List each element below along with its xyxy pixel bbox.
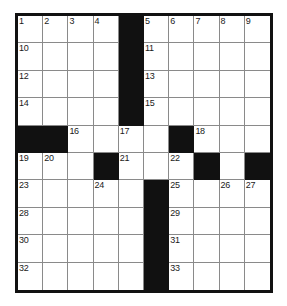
clue-number: 1: [19, 16, 24, 26]
clue-number: 18: [195, 126, 204, 136]
letter-cell[interactable]: 11: [144, 43, 169, 70]
letter-cell[interactable]: [119, 263, 144, 290]
letter-cell[interactable]: 2: [43, 16, 68, 43]
block-cell: [18, 126, 43, 153]
letter-cell[interactable]: [169, 71, 194, 98]
letter-cell[interactable]: 27: [245, 180, 270, 207]
letter-cell[interactable]: 13: [144, 71, 169, 98]
letter-cell[interactable]: [43, 71, 68, 98]
letter-cell[interactable]: [194, 180, 219, 207]
letter-cell[interactable]: 15: [144, 98, 169, 125]
letter-cell[interactable]: 32: [18, 263, 43, 290]
clue-number: 23: [19, 180, 28, 190]
letter-cell[interactable]: 6: [169, 16, 194, 43]
letter-cell[interactable]: [194, 98, 219, 125]
letter-cell[interactable]: 21: [119, 153, 144, 180]
letter-cell[interactable]: [94, 43, 119, 70]
letter-cell[interactable]: 23: [18, 180, 43, 207]
letter-cell[interactable]: [220, 43, 245, 70]
letter-cell[interactable]: [94, 71, 119, 98]
letter-cell[interactable]: [119, 208, 144, 235]
letter-cell[interactable]: [169, 98, 194, 125]
letter-cell[interactable]: 16: [68, 126, 93, 153]
letter-cell[interactable]: [220, 71, 245, 98]
letter-cell[interactable]: [245, 208, 270, 235]
letter-cell[interactable]: [194, 235, 219, 262]
letter-cell[interactable]: [194, 208, 219, 235]
letter-cell[interactable]: 9: [245, 16, 270, 43]
letter-cell[interactable]: [68, 263, 93, 290]
letter-cell[interactable]: [169, 43, 194, 70]
letter-cell[interactable]: [119, 235, 144, 262]
letter-cell[interactable]: [68, 180, 93, 207]
letter-cell[interactable]: 17: [119, 126, 144, 153]
letter-cell[interactable]: [220, 208, 245, 235]
letter-cell[interactable]: [94, 126, 119, 153]
clue-number: 21: [120, 153, 129, 163]
letter-cell[interactable]: [43, 180, 68, 207]
letter-cell[interactable]: [220, 235, 245, 262]
letter-cell[interactable]: [43, 98, 68, 125]
letter-cell[interactable]: [43, 263, 68, 290]
clue-number: 13: [145, 71, 154, 81]
clue-number: 32: [19, 263, 28, 273]
letter-cell[interactable]: 31: [169, 235, 194, 262]
letter-cell[interactable]: 10: [18, 43, 43, 70]
letter-cell[interactable]: [68, 43, 93, 70]
block-cell: [119, 71, 144, 98]
letter-cell[interactable]: 5: [144, 16, 169, 43]
letter-cell[interactable]: [94, 263, 119, 290]
letter-cell[interactable]: [194, 43, 219, 70]
letter-cell[interactable]: 19: [18, 153, 43, 180]
letter-cell[interactable]: [119, 180, 144, 207]
letter-cell[interactable]: 33: [169, 263, 194, 290]
letter-cell[interactable]: [68, 153, 93, 180]
letter-cell[interactable]: 29: [169, 208, 194, 235]
letter-cell[interactable]: [220, 126, 245, 153]
letter-cell[interactable]: [43, 235, 68, 262]
letter-cell[interactable]: 30: [18, 235, 43, 262]
letter-cell[interactable]: [68, 208, 93, 235]
letter-cell[interactable]: 12: [18, 71, 43, 98]
clue-number: 10: [19, 43, 28, 53]
letter-cell[interactable]: 28: [18, 208, 43, 235]
letter-cell[interactable]: [194, 263, 219, 290]
letter-cell[interactable]: [245, 43, 270, 70]
letter-cell[interactable]: 25: [169, 180, 194, 207]
letter-cell[interactable]: 24: [94, 180, 119, 207]
letter-cell[interactable]: 4: [94, 16, 119, 43]
letter-cell[interactable]: [245, 235, 270, 262]
letter-cell[interactable]: [43, 208, 68, 235]
letter-cell[interactable]: [144, 126, 169, 153]
clue-number: 17: [120, 126, 129, 136]
letter-cell[interactable]: [68, 98, 93, 125]
letter-cell[interactable]: [220, 263, 245, 290]
letter-cell[interactable]: [94, 208, 119, 235]
letter-cell[interactable]: [245, 126, 270, 153]
clue-number: 26: [221, 180, 230, 190]
letter-cell[interactable]: 18: [194, 126, 219, 153]
letter-cell[interactable]: [194, 71, 219, 98]
letter-cell[interactable]: [94, 98, 119, 125]
letter-cell[interactable]: [43, 43, 68, 70]
clue-number: 6: [170, 16, 175, 26]
letter-cell[interactable]: [94, 235, 119, 262]
letter-cell[interactable]: [245, 71, 270, 98]
letter-cell[interactable]: 14: [18, 98, 43, 125]
clue-number: 29: [170, 208, 179, 218]
letter-cell[interactable]: 3: [68, 16, 93, 43]
letter-cell[interactable]: [144, 153, 169, 180]
letter-cell[interactable]: [68, 71, 93, 98]
letter-cell[interactable]: [68, 235, 93, 262]
crossword-grid[interactable]: 1234567891011121314151617181920212223242…: [15, 13, 273, 293]
letter-cell[interactable]: 7: [194, 16, 219, 43]
letter-cell[interactable]: [220, 98, 245, 125]
letter-cell[interactable]: [220, 153, 245, 180]
letter-cell[interactable]: 1: [18, 16, 43, 43]
letter-cell[interactable]: [245, 263, 270, 290]
letter-cell[interactable]: 26: [220, 180, 245, 207]
letter-cell[interactable]: 22: [169, 153, 194, 180]
letter-cell[interactable]: [245, 98, 270, 125]
letter-cell[interactable]: 8: [220, 16, 245, 43]
letter-cell[interactable]: 20: [43, 153, 68, 180]
